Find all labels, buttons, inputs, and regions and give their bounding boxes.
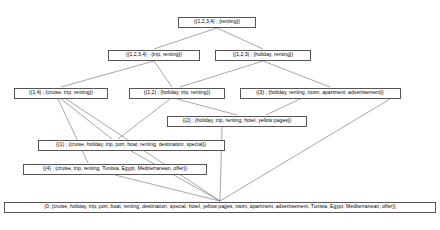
concept-node-n4[interactable]: {{4} ; {cruise, trip, renting, Tunisia, … bbox=[23, 164, 207, 175]
concept-node-label: {{2} ; {holiday, trip, renting, hotel, y… bbox=[183, 118, 292, 123]
concept-node-n2[interactable]: {{2} ; {holiday, trip, renting, hotel, y… bbox=[167, 116, 307, 127]
concept-node-label: {0; {cruise, holiday, trip, port, boat, … bbox=[44, 204, 395, 209]
lattice-edge bbox=[180, 61, 263, 87]
concept-node-n1[interactable]: {{1} ; {cruise, holiday, trip, port, boa… bbox=[38, 140, 225, 151]
concept-node-n3[interactable]: {{3} ; {holiday, renting, room, apartmen… bbox=[240, 88, 401, 99]
concept-node-label: {{4} ; {cruise, trip, renting, Tunisia, … bbox=[43, 166, 187, 171]
lattice-edge bbox=[154, 28, 217, 49]
concept-node-n14[interactable]: {{1,4} ; {cruise, trip, renting}} bbox=[14, 88, 108, 99]
lattice-edge bbox=[131, 151, 220, 201]
lattice-edge bbox=[220, 127, 222, 201]
lattice-edge bbox=[118, 99, 170, 139]
lattice-edge bbox=[61, 61, 154, 87]
lattice-edge bbox=[115, 175, 220, 201]
concept-lattice-diagram: {{1,2,3,4} ; {renting}}{{1,2,3,4} ; {tri… bbox=[0, 0, 440, 230]
concept-node-n12[interactable]: {{1,2} ; {holiday, trip, renting}} bbox=[129, 88, 225, 99]
concept-node-label: {{1,4} ; {cruise, trip, renting}} bbox=[29, 90, 93, 95]
lattice-edge bbox=[220, 99, 390, 201]
concept-node-n123-holiday[interactable]: {{1,2,3} ; {holiday, renting}} bbox=[215, 50, 311, 61]
concept-node-n1234-trip[interactable]: {{1,2,3,4} ; {trip, renting}} bbox=[108, 50, 200, 61]
concept-node-label: {{1,2} ; {holiday, trip, renting}} bbox=[144, 90, 210, 95]
concept-node-label: {{1,2,3,4} ; {trip, renting}} bbox=[126, 52, 182, 57]
concept-node-label: {{1} ; {cruise, holiday, trip, port, boa… bbox=[56, 142, 206, 147]
concept-node-top[interactable]: {{1,2,3,4} ; {renting}} bbox=[178, 17, 256, 28]
concept-node-label: {{1,2,3} ; {holiday, renting}} bbox=[233, 52, 294, 57]
lattice-edge bbox=[61, 99, 112, 139]
concept-node-label: {{1,2,3,4} ; {renting}} bbox=[194, 19, 240, 24]
lattice-edge bbox=[263, 61, 330, 87]
concept-node-label: {{3} ; {holiday, renting, room, apartmen… bbox=[256, 90, 384, 95]
concept-node-bottom[interactable]: {0; {cruise, holiday, trip, port, boat, … bbox=[4, 202, 436, 213]
lattice-edge bbox=[217, 28, 263, 49]
lattice-edge bbox=[154, 61, 172, 87]
lattice-edge bbox=[266, 99, 300, 115]
lattice-edge bbox=[177, 99, 237, 115]
